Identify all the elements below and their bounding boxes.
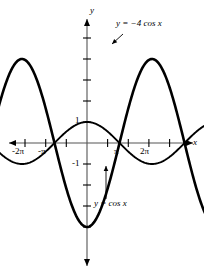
- y-tick-label-neg-one: -1: [72, 159, 80, 168]
- y-tick-label-one: 1: [75, 116, 80, 125]
- x-tick-label-neg-2pi: -2π: [12, 147, 24, 156]
- y-axis-top-arrowhead: [84, 19, 90, 26]
- x-tick-label-2pi: 2π: [140, 147, 149, 156]
- annotation-label-neg-4-cos-x: y = −4 cos x: [116, 19, 162, 28]
- x-tick-label-pi: π: [114, 147, 119, 156]
- y-axis-bottom-arrowhead: [84, 259, 90, 266]
- trig-graph-plot: [0, 0, 204, 274]
- y-axis-label: y: [90, 6, 94, 15]
- x-axis-label: x: [193, 138, 197, 147]
- x-tick-label-neg-pi: -π: [38, 147, 46, 156]
- figure-canvas: x y -2π -π π 2π 1 -1 y = −4 cos x y = co…: [0, 0, 204, 274]
- annotation-arrows: [104, 34, 123, 199]
- horizontal-axis: [9, 140, 193, 146]
- annotation-label-cos-x: y = cos x: [94, 199, 127, 208]
- cos-leader-arrowhead: [104, 166, 109, 171]
